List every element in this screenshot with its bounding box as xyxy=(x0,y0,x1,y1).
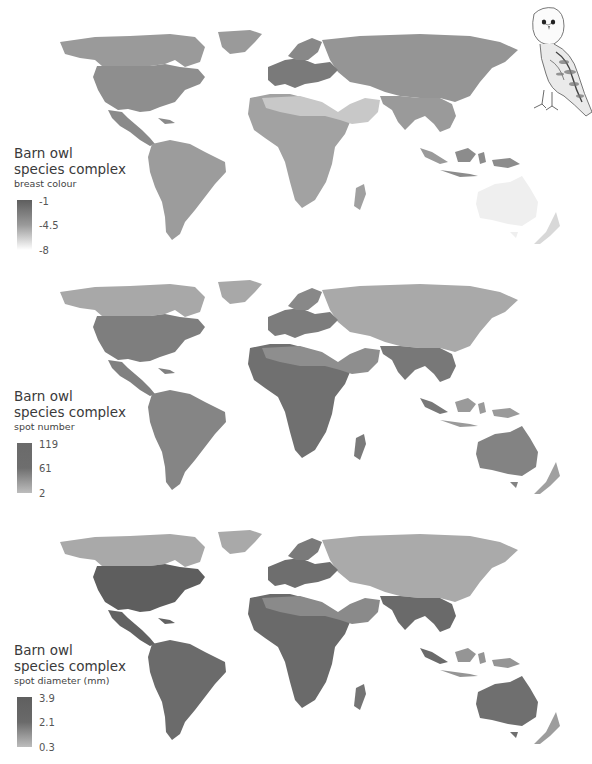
owl-right-eye-icon xyxy=(551,19,555,24)
region-madagascar xyxy=(354,434,366,460)
region-europe xyxy=(268,58,338,88)
legend-title-line2: species complex xyxy=(14,404,144,420)
legend-spot-diameter: Barn owl species complex spot diameter (… xyxy=(14,642,144,757)
region-south-america xyxy=(148,390,226,490)
region-north-america-south xyxy=(93,64,205,112)
region-south-america xyxy=(148,640,226,740)
legend-title-line2: species complex xyxy=(14,161,144,177)
region-central-america xyxy=(108,610,175,646)
legend-mid-label: 2.1 xyxy=(39,718,55,728)
legend-title-line2: species complex xyxy=(14,658,144,674)
region-scandinavia xyxy=(288,538,322,560)
legend-max-label: 3.9 xyxy=(39,694,55,704)
owl-left-eye-icon xyxy=(542,19,546,24)
region-greenland xyxy=(218,280,262,304)
legend-max-label: -1 xyxy=(39,197,49,207)
region-australia xyxy=(476,426,538,488)
region-india-southeast-asia xyxy=(380,596,456,664)
legend-gradient-bar xyxy=(17,200,32,250)
region-scandinavia xyxy=(288,38,322,60)
region-russia-asia xyxy=(322,534,518,602)
region-indonesia xyxy=(440,648,520,677)
legend-breast-colour: Barn owl species complex breast colour -… xyxy=(14,145,144,260)
legend-min-label: 2 xyxy=(39,489,45,499)
region-madagascar xyxy=(354,684,366,710)
region-australia xyxy=(476,676,538,738)
legend-variable: spot number xyxy=(14,421,144,433)
region-north-america-south xyxy=(93,314,205,362)
region-new-zealand xyxy=(534,712,560,744)
region-north-america-north xyxy=(60,34,205,67)
region-australia xyxy=(476,176,538,238)
legend-variable: spot diameter (mm) xyxy=(14,675,144,687)
legend-scale: -1 -4.5 -8 xyxy=(14,200,144,260)
barn-owl-illustration xyxy=(520,4,592,122)
region-north-america-south xyxy=(93,564,205,612)
legend-title-line1: Barn owl xyxy=(14,145,144,161)
region-central-america xyxy=(108,110,175,146)
region-indonesia xyxy=(440,148,520,177)
legend-max-label: 119 xyxy=(39,440,58,450)
region-india-southeast-asia xyxy=(380,346,456,414)
region-russia-asia xyxy=(322,34,518,102)
legend-spot-number: Barn owl species complex spot number 119… xyxy=(14,388,144,503)
region-new-zealand xyxy=(534,462,560,494)
region-madagascar xyxy=(354,184,366,210)
region-south-america xyxy=(148,140,226,240)
map-panel-breast-colour: Barn owl species complex breast colour -… xyxy=(0,12,592,252)
region-europe xyxy=(268,308,338,338)
legend-mid-label: 61 xyxy=(39,464,52,474)
legend-variable: breast colour xyxy=(14,178,144,190)
legend-min-label: 0.3 xyxy=(39,743,55,753)
legend-mid-label: -4.5 xyxy=(39,221,59,231)
region-india-southeast-asia xyxy=(380,96,456,164)
region-greenland xyxy=(218,530,262,554)
region-russia-asia xyxy=(322,284,518,352)
legend-title-line1: Barn owl xyxy=(14,388,144,404)
region-scandinavia xyxy=(288,288,322,310)
legend-scale: 119 61 2 xyxy=(14,443,144,503)
legend-min-label: -8 xyxy=(39,246,49,256)
region-new-zealand xyxy=(534,212,560,244)
region-europe xyxy=(268,558,338,588)
legend-title-line1: Barn owl xyxy=(14,642,144,658)
map-panel-spot-diameter: Barn owl species complex spot diameter (… xyxy=(0,512,592,752)
legend-gradient-bar xyxy=(17,443,32,493)
legend-scale: 3.9 2.1 0.3 xyxy=(14,697,144,757)
region-north-america-north xyxy=(60,534,205,567)
legend-gradient-bar xyxy=(17,697,32,747)
region-north-america-north xyxy=(60,284,205,317)
region-indonesia xyxy=(440,398,520,427)
map-panel-spot-number: Barn owl species complex spot number 119… xyxy=(0,262,592,502)
region-greenland xyxy=(218,30,262,54)
